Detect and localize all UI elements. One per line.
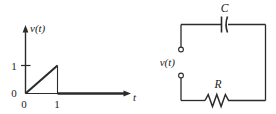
- resistor-label: R: [213, 78, 221, 90]
- waveform-ramp: [26, 66, 58, 94]
- resistor-symbol: [205, 95, 231, 107]
- source-label: v(t): [160, 56, 176, 69]
- waveform-plot: v(t) t 1 0 0 1: [11, 22, 137, 110]
- y-tick-label-1: 1: [11, 60, 17, 72]
- circuit-diagram: C R v(t): [160, 2, 266, 107]
- terminal-top: [179, 47, 184, 52]
- y-axis-label: v(t): [30, 22, 46, 35]
- capacitor-symbol: [222, 17, 228, 33]
- y-axis: [23, 25, 29, 94]
- figure-root: v(t) t 1 0 0 1 C: [0, 0, 276, 114]
- capacitor-label: C: [221, 2, 229, 14]
- figure-canvas: v(t) t 1 0 0 1 C: [0, 0, 276, 114]
- x-origin-label: 0: [21, 98, 27, 110]
- y-origin-label: 0: [11, 87, 17, 99]
- x-axis-label: t: [133, 91, 137, 103]
- x-tick-label-1: 1: [54, 98, 60, 110]
- terminal-bottom: [179, 73, 184, 78]
